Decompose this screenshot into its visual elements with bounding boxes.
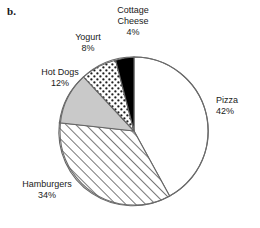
slice-value-hamburgers: 34% xyxy=(9,190,85,201)
slice-value-hot-dogs: 12% xyxy=(24,78,96,89)
slice-value-pizza: 42% xyxy=(216,106,258,117)
slice-label-hamburgers-text: Hamburgers xyxy=(22,179,72,189)
slice-label-yogurt: Yogurt 8% xyxy=(62,32,114,54)
slice-label-hot-dogs: Hot Dogs 12% xyxy=(24,67,96,89)
slice-label-cottage-cheese-line2: Cheese xyxy=(117,16,148,26)
slice-label-hamburgers: Hamburgers 34% xyxy=(9,179,85,201)
slice-label-cottage-cheese-line1: Cottage xyxy=(117,5,149,15)
slice-label-hot-dogs-text: Hot Dogs xyxy=(41,67,79,77)
slice-label-pizza: Pizza 42% xyxy=(216,95,258,117)
slice-label-pizza-text: Pizza xyxy=(216,95,238,105)
slice-value-yogurt: 8% xyxy=(62,43,114,54)
pie-chart-figure: b. Cottage Cheese 4% Y xyxy=(0,0,260,228)
slice-label-yogurt-text: Yogurt xyxy=(75,32,101,42)
